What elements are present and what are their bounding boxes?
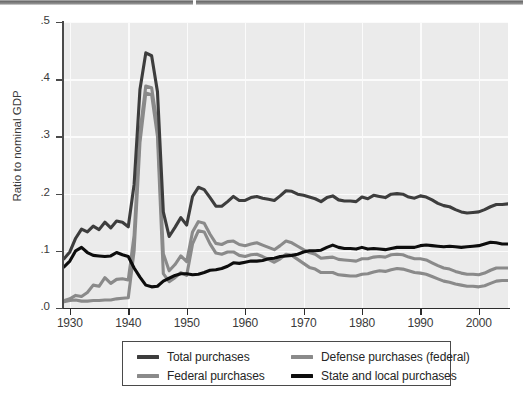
legend-item: State and local purchases <box>291 367 457 385</box>
y-tick-label: .2 <box>22 186 50 198</box>
legend-label: Federal purchases <box>167 369 265 383</box>
legend-label: State and local purchases <box>321 369 457 383</box>
x-tick-label: 1980 <box>339 316 385 330</box>
x-tick-label: 2000 <box>456 316 502 330</box>
y-tick-label: .1 <box>22 243 50 255</box>
chart-figure: Ratio to nominal GDP .0.1.2.3.4.5 193019… <box>0 0 523 406</box>
legend-item: Defense purchases (federal) <box>291 348 470 366</box>
y-tick <box>56 308 63 309</box>
plot-area <box>64 22 508 308</box>
x-tick <box>362 309 363 315</box>
legend-item: Total purchases <box>137 348 250 366</box>
x-tick-label: 1960 <box>222 316 268 330</box>
x-tick <box>245 309 246 315</box>
y-axis-line <box>62 21 64 309</box>
legend-label: Total purchases <box>167 350 250 364</box>
y-tick-label: .4 <box>22 71 50 83</box>
x-tick <box>128 309 129 315</box>
series-line <box>64 86 508 301</box>
legend-item: Federal purchases <box>137 367 265 385</box>
legend-swatch-icon <box>291 355 313 358</box>
x-tick <box>304 309 305 315</box>
page-scan-artifact-bottom <box>0 398 523 406</box>
series-lines <box>64 22 508 308</box>
x-tick-label: 1950 <box>164 316 210 330</box>
x-tick <box>420 309 421 315</box>
x-tick-label: 1940 <box>105 316 151 330</box>
x-tick-label: 1990 <box>397 316 443 330</box>
y-tick-label: .0 <box>22 300 50 312</box>
y-tick-label: .5 <box>22 14 50 26</box>
y-tick <box>56 79 63 80</box>
y-tick <box>56 194 63 195</box>
legend-swatch-icon <box>137 374 159 377</box>
x-tick <box>479 309 480 315</box>
legend-swatch-icon <box>137 355 159 358</box>
chart-legend: Total purchasesDefense purchases (federa… <box>122 341 451 386</box>
legend-label: Defense purchases (federal) <box>321 350 470 364</box>
legend-swatch-icon <box>291 374 313 377</box>
y-tick <box>56 251 63 252</box>
x-tick-label: 1930 <box>47 316 93 330</box>
x-tick-label: 1970 <box>281 316 327 330</box>
x-tick <box>187 309 188 315</box>
series-line <box>64 53 508 259</box>
y-tick <box>56 136 63 137</box>
y-tick-label: .3 <box>22 128 50 140</box>
x-tick <box>70 309 71 315</box>
y-tick <box>56 22 63 23</box>
y-axis-label: Ratio to nominal GDP <box>11 61 27 231</box>
